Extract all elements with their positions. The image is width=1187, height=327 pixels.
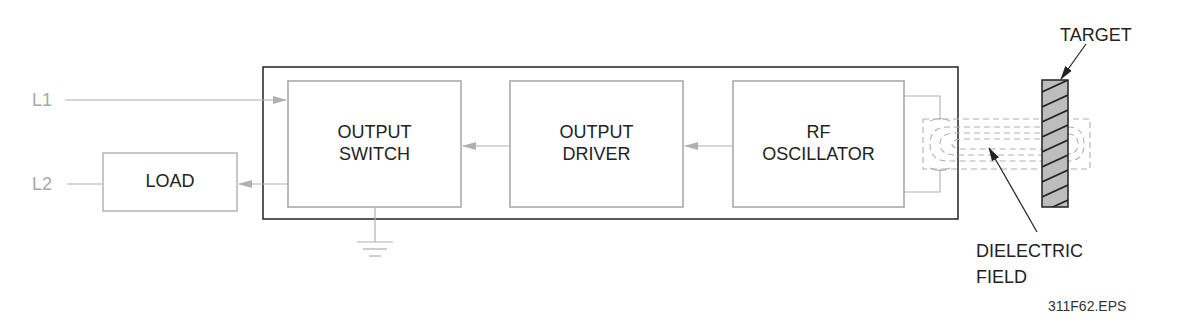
output-switch-line1: OUTPUT [338,122,412,144]
load-label-text: LOAD [145,171,194,193]
l2-label: L2 [32,175,52,193]
dielectric-callout-label: DIELECTRIC FIELD [976,238,1083,290]
target-callout-arrow [1061,44,1086,79]
ground-icon [357,207,393,256]
rf-oscillator-line1: RF [807,122,831,144]
output-driver-label: OUTPUT DRIVER [510,81,683,207]
load-label: LOAD [103,153,237,211]
target-object [1042,80,1068,212]
figure-id: 311F62.EPS [1048,299,1126,313]
output-driver-line2: DRIVER [562,144,630,166]
output-switch-line2: SWITCH [339,144,410,166]
target-callout-label: TARGET [1060,22,1132,48]
dielectric-line2: FIELD [976,264,1083,290]
rf-oscillator-label: RF OSCILLATOR [733,81,904,207]
l1-label: L1 [32,91,52,109]
sensor-electrode-leads [904,96,950,192]
rf-oscillator-line2: OSCILLATOR [762,144,874,166]
output-switch-label: OUTPUT SWITCH [288,81,461,207]
output-driver-line1: OUTPUT [560,122,634,144]
dielectric-line1: DIELECTRIC [976,238,1083,264]
